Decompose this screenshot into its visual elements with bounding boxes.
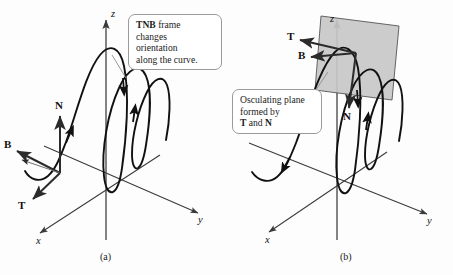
callout-b-line3-mid: and xyxy=(246,117,265,128)
callout-a-line1-rest: frame xyxy=(156,19,181,30)
callout-a: TNB frame changes orientation along the … xyxy=(128,14,222,70)
callout-a-line2: changes xyxy=(136,31,167,42)
vector-label-B-b: B xyxy=(298,49,305,61)
vector-label-T-a: T xyxy=(18,199,25,211)
callout-b-line1: Osculating plane xyxy=(240,94,305,105)
vector-B xyxy=(17,151,60,173)
curve-direction-arrow-2 xyxy=(123,78,124,92)
vector-label-T-b: T xyxy=(287,30,294,42)
callout-a-line1-bold: TNB xyxy=(136,19,156,30)
axis-label-x-a: x xyxy=(36,235,41,246)
axis-label-y-b: y xyxy=(427,215,432,226)
axis-x xyxy=(40,155,160,233)
vector-B-shadow xyxy=(22,160,60,173)
axis-y xyxy=(44,146,198,213)
panel-a-caption: (a) xyxy=(100,251,111,262)
vector-label-N-b: N xyxy=(343,110,351,122)
curve-direction-arrow-3 xyxy=(133,108,135,122)
callout-b: Osculating plane formed by T and N xyxy=(232,89,322,134)
vector-label-B-a: B xyxy=(4,138,11,150)
callout-a-line3: orientation xyxy=(136,42,178,53)
curve-direction-arrow-2 xyxy=(357,90,358,104)
panel-b: Osculating plane formed by T and N z y x… xyxy=(227,0,453,275)
panel-b-caption: (b) xyxy=(340,251,352,262)
axis-label-y-a: y xyxy=(198,214,203,225)
panel-a: TNB frame changes orientation along the … xyxy=(0,0,226,275)
curve-direction-arrow-1 xyxy=(283,157,290,170)
callout-a-line4: along the curve. xyxy=(136,54,198,65)
axis-label-x-b: x xyxy=(265,234,270,245)
panel-b-graphic xyxy=(227,0,453,275)
vector-label-N-a: N xyxy=(55,99,63,111)
callout-b-line2: formed by xyxy=(240,106,280,117)
axis-label-z-b: z xyxy=(330,13,334,24)
axis-label-z-a: z xyxy=(111,8,115,19)
osculating-plane xyxy=(315,16,399,100)
callout-b-line3-boldN: N xyxy=(265,117,272,128)
figure-container: TNB frame changes orientation along the … xyxy=(0,0,453,275)
